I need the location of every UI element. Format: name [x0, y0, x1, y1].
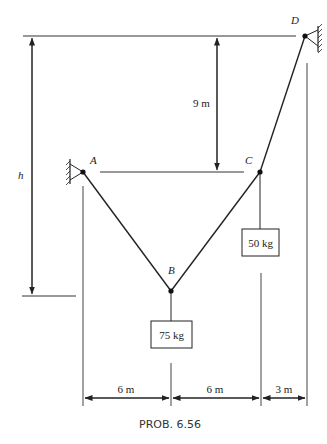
label-d: D	[290, 14, 299, 26]
h-label: h	[18, 169, 24, 181]
wall-support-d-icon	[305, 24, 322, 53]
label-a: A	[89, 154, 97, 166]
joint-d	[302, 33, 307, 38]
joint-b	[168, 288, 173, 293]
mass-label-75kg: 75 kg	[159, 329, 184, 341]
figure-caption: PROB. 6.56	[139, 418, 201, 431]
dim-label-bc: 6 m	[207, 383, 224, 395]
dim-label-ab: 6 m	[118, 383, 135, 395]
label-b: B	[168, 264, 175, 276]
mass-label-50kg: 50 kg	[248, 237, 273, 249]
h-dimension	[22, 38, 76, 296]
dim-label-cd: 3 m	[276, 383, 293, 395]
nine-m-dimension	[100, 38, 244, 172]
cable-cd	[260, 36, 305, 172]
cable-ab	[83, 172, 171, 291]
label-c: C	[245, 154, 253, 166]
joint-c	[257, 169, 262, 174]
nine-m-label: 9 m	[193, 97, 210, 109]
cable-system-diagram: h 9 m A B	[0, 0, 327, 444]
joint-a	[80, 169, 85, 174]
